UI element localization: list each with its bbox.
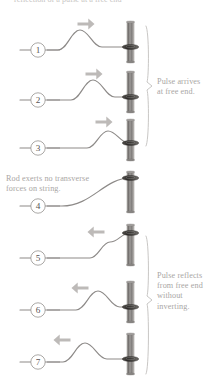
rod-1 bbox=[127, 22, 134, 62]
panel-7: 7 bbox=[20, 333, 139, 375]
rod-cap-bottom-7 bbox=[126, 373, 134, 375]
panel-3: 3 bbox=[20, 117, 139, 161]
rod-cap-bottom-2 bbox=[126, 111, 134, 113]
step-number-2: 2 bbox=[36, 95, 41, 105]
rod-cap-top-5 bbox=[126, 224, 134, 226]
rod-cap-top-7 bbox=[126, 333, 134, 335]
rod-cap-top-1 bbox=[126, 21, 134, 23]
step-number-7: 7 bbox=[36, 357, 41, 367]
rod-2 bbox=[127, 72, 134, 112]
direction-arrow-2 bbox=[86, 69, 103, 80]
rod-cap-top-3 bbox=[126, 119, 134, 121]
caption-pulse-reflects: Pulse reflects from free end without inv… bbox=[157, 271, 203, 312]
rod-7 bbox=[127, 334, 134, 374]
rod-cap-bottom-4 bbox=[126, 211, 134, 213]
direction-arrow-1 bbox=[78, 19, 95, 30]
caption-pulse-arrives: Pulse arrives at free end. bbox=[157, 77, 200, 97]
direction-arrow-5 bbox=[88, 227, 105, 238]
direction-arrow-3 bbox=[96, 117, 113, 128]
rod-cap-bottom-1 bbox=[126, 61, 134, 63]
rod-cap-top-2 bbox=[126, 71, 134, 73]
rod-6 bbox=[127, 282, 134, 322]
brace-top bbox=[146, 26, 152, 146]
step-number-6: 6 bbox=[36, 305, 41, 315]
step-number-4: 4 bbox=[36, 201, 41, 211]
rod-cap-bottom-5 bbox=[126, 264, 134, 266]
direction-arrow-6 bbox=[72, 283, 89, 294]
step-number-5: 5 bbox=[36, 253, 41, 263]
direction-arrow-7 bbox=[54, 335, 71, 346]
panel-6: 6 bbox=[20, 281, 139, 323]
figure-title-cut: reflection of a pulse at a free end bbox=[14, 0, 122, 4]
step-number-3: 3 bbox=[36, 143, 41, 153]
step-number-1: 1 bbox=[36, 45, 41, 55]
rod-3 bbox=[127, 120, 134, 160]
figure-canvas: reflection of a pulse at a free end 1234… bbox=[0, 0, 219, 383]
rod-cap-bottom-3 bbox=[126, 159, 134, 161]
rod-cap-bottom-6 bbox=[126, 321, 134, 323]
caption-rod-note: Rod exerts no transverse forces on strin… bbox=[6, 174, 89, 194]
panel-1: 1 bbox=[20, 19, 139, 63]
rod-cap-top-4 bbox=[126, 171, 134, 173]
rod-cap-top-6 bbox=[126, 281, 134, 283]
panel-5: 5 bbox=[20, 224, 139, 266]
brace-bottom bbox=[146, 236, 152, 374]
panel-2: 2 bbox=[20, 69, 139, 113]
